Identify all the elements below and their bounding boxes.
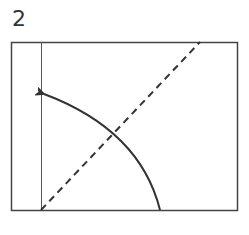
paper-rectangle bbox=[12, 43, 238, 211]
fold-diagram bbox=[0, 0, 249, 235]
fold-arrow bbox=[44, 94, 160, 210]
dashed-fold-line bbox=[41, 42, 200, 210]
